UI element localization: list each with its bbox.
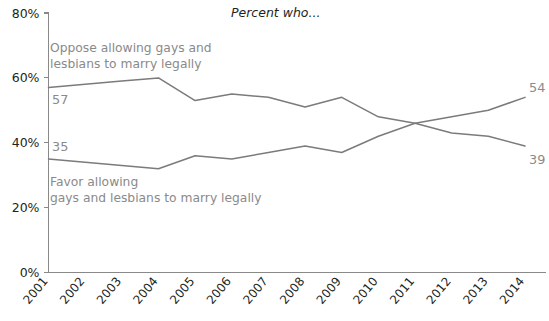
x-tick-label-2012: 2012 xyxy=(424,274,454,306)
x-tick-label-2006: 2006 xyxy=(204,274,234,306)
x-axis: 2001200220032004200520062007200820092010… xyxy=(20,273,546,307)
x-tick-label-2011: 2011 xyxy=(387,274,417,306)
y-axis-ticks: 0%20%40%60%80% xyxy=(12,6,49,281)
oppose-end-value-label: 39 xyxy=(529,152,545,167)
favor-annotation-line2: gays and lesbians to marry legally xyxy=(50,191,262,205)
y-tick-label: 60% xyxy=(12,70,40,85)
series-line-oppose xyxy=(49,78,526,146)
x-tick-label-2013: 2013 xyxy=(460,274,490,306)
y-tick-label: 20% xyxy=(12,200,40,215)
oppose-annotation-line1: Oppose allowing gays and xyxy=(50,41,212,55)
oppose-annotation: Oppose allowing gays and lesbians to mar… xyxy=(50,41,212,71)
x-tick-label-2014: 2014 xyxy=(497,274,527,306)
oppose-start-value-label: 57 xyxy=(52,92,68,107)
x-tick-label-2010: 2010 xyxy=(350,274,380,306)
x-tick-label-2008: 2008 xyxy=(277,274,307,306)
x-tick-label-2004: 2004 xyxy=(130,274,160,306)
x-tick-label-2005: 2005 xyxy=(167,274,197,306)
y-axis: 0%20%40%60%80% xyxy=(12,6,49,281)
x-axis-ticks: 2001200220032004200520062007200820092010… xyxy=(20,274,527,306)
chart-title: Percent who... xyxy=(231,5,320,20)
favor-annotation: Favor allowing gays and lesbians to marr… xyxy=(50,175,262,205)
y-tick-label: 40% xyxy=(12,135,40,150)
oppose-annotation-line2: lesbians to marry legally xyxy=(50,57,202,71)
y-tick-label: 80% xyxy=(12,6,40,21)
x-tick-label-2002: 2002 xyxy=(57,274,87,306)
x-tick-label-2007: 2007 xyxy=(240,274,270,306)
favor-annotation-line1: Favor allowing xyxy=(50,175,138,189)
x-tick-label-2003: 2003 xyxy=(94,274,124,306)
favor-end-value-label: 54 xyxy=(529,80,545,95)
chart-svg: Percent who... 0%20%40%60%80% 2001200220… xyxy=(0,0,549,321)
x-tick-label-2009: 2009 xyxy=(314,274,344,306)
series-lines xyxy=(49,78,526,169)
line-chart: Percent who... 0%20%40%60%80% 2001200220… xyxy=(0,0,549,321)
favor-start-value-label: 35 xyxy=(52,139,68,154)
